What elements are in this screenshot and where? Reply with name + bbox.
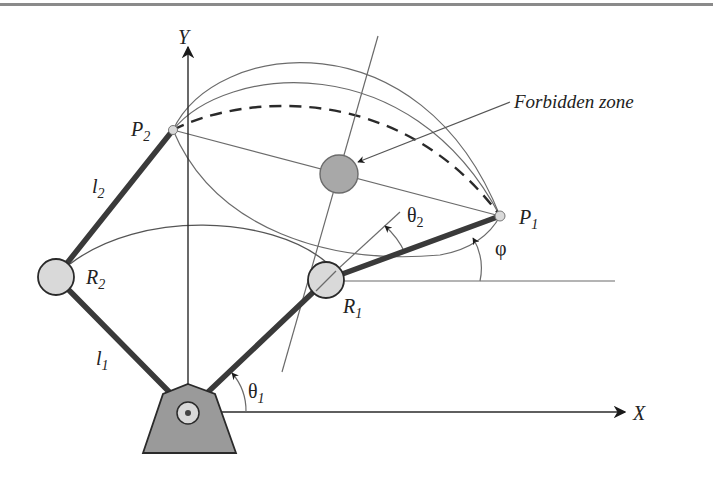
label-r1: R1 (342, 295, 362, 321)
phi-arc (473, 238, 481, 281)
y-axis-label: Y (178, 26, 191, 48)
joint-arc (70, 225, 326, 264)
base-pivot-center (185, 410, 191, 416)
robot-arm-diagram: Y X P2 P1 R2 R1 l2 l1 θ1 (0, 0, 713, 478)
label-l2: l2 (92, 175, 105, 201)
label-l1: l1 (96, 347, 109, 373)
label-theta2: θ2 (407, 204, 424, 230)
forbidden-zone-circle (320, 155, 358, 193)
label-theta1: θ1 (248, 380, 265, 406)
label-p1: P1 (518, 206, 538, 232)
label-p2: P2 (130, 118, 150, 144)
x-axis-label: X (632, 402, 646, 424)
joint-r1 (308, 262, 344, 298)
point-p2 (169, 126, 178, 135)
forbidden-zone-pointer (358, 102, 510, 162)
label-r2: R2 (85, 266, 105, 292)
theta2-arc (385, 226, 405, 253)
label-phi: φ (495, 237, 507, 260)
outer-arc-middle (173, 83, 500, 216)
link-l1 (56, 277, 188, 411)
label-forbidden-zone: Forbidden zone (513, 91, 634, 112)
point-p1 (495, 211, 505, 221)
theta1-arc (232, 373, 246, 412)
link-l2 (56, 130, 173, 277)
perpendicular-line (282, 36, 378, 372)
joint-r2 (38, 259, 74, 295)
